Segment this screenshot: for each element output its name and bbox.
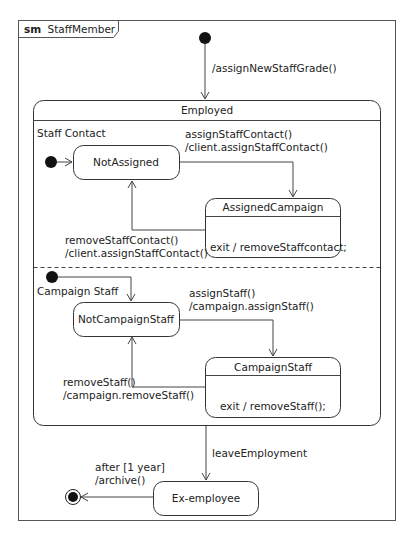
transition-archive-effect: /archive() [95, 474, 145, 486]
transition-assign-staff-trigger: assignStaff() [189, 287, 255, 299]
region1-initial-icon [45, 156, 57, 168]
region-staff-contact-label: Staff Contact [37, 127, 106, 139]
frame-kind: sm [24, 23, 41, 35]
state-not-campaign-staff-label: NotCampaignStaff [78, 313, 175, 325]
state-not-assigned[interactable]: NotAssigned [74, 146, 180, 180]
state-not-assigned-label: NotAssigned [93, 156, 159, 168]
state-campaign-staff-internal: exit / removeStaff(); [220, 400, 326, 412]
transition-leave-employment-label: leaveEmployment [212, 447, 307, 459]
state-campaign-staff-label: CampaignStaff [234, 361, 313, 373]
frame-name: StaffMember [48, 23, 116, 35]
region-campaign-staff-label: Campaign Staff [37, 285, 119, 297]
region2-initial-icon [46, 271, 58, 283]
frame-title: sm StaffMember [24, 23, 116, 35]
state-assigned-campaign[interactable]: AssignedCampaign exit / removeStaffconta… [206, 199, 347, 258]
transition-assign-staff-effect: /campaign.assignStaff() [189, 300, 314, 312]
initial-transition-label: /assignNewStaffGrade() [212, 62, 337, 74]
final-state-icon [66, 490, 81, 505]
state-campaign-staff[interactable]: CampaignStaff exit / removeStaff(); [206, 358, 341, 418]
state-assigned-campaign-label: AssignedCampaign [223, 201, 324, 213]
state-assigned-campaign-internal: exit / removeStaffcontact; [210, 241, 347, 253]
state-ex-employee-label: Ex-employee [172, 492, 240, 504]
transition-assign-staff-contact-trigger: assignStaffContact() [185, 128, 292, 140]
state-ex-employee[interactable]: Ex-employee [154, 482, 259, 516]
state-employed-label: Employed [181, 104, 233, 116]
state-not-campaign-staff[interactable]: NotCampaignStaff [74, 303, 180, 337]
initial-pseudostate-icon [199, 32, 211, 44]
transition-remove-staff-trigger: removeStaff() [63, 376, 136, 388]
state-machine-diagram: sm StaffMember /assignNewStaffGrade() Em… [0, 0, 409, 546]
transition-archive-trigger: after [1 year] [95, 461, 165, 473]
transition-remove-staff-contact-effect: /client.assignStaffContact() [65, 247, 208, 259]
transition-remove-staff-contact-trigger: removeStaffContact() [65, 234, 178, 246]
transition-assign-staff-contact-effect: /client.assignStaffContact() [185, 141, 328, 153]
transition-remove-staff-effect: /campaign.removeStaff() [63, 389, 194, 401]
